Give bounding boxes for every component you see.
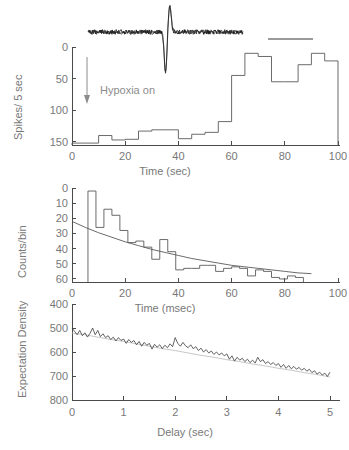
tick-label: 80	[279, 150, 291, 162]
tick-label: 3	[224, 406, 230, 418]
rate-histogram-trace	[72, 53, 338, 145]
tick-label: 50	[56, 258, 68, 270]
tick-label: 500	[50, 322, 68, 334]
tick-label: 20	[119, 287, 131, 299]
bottom-x-axis-title: Delay (sec)	[157, 426, 213, 438]
tick-label: 40	[56, 243, 68, 255]
top-x-axis-title: Time (sec)	[139, 165, 191, 177]
tick-label: 100	[329, 287, 347, 299]
tick-label: 60	[56, 273, 68, 285]
tick-label: 30	[56, 227, 68, 239]
tick-label: 0	[69, 406, 75, 418]
tick-label: 0	[62, 41, 68, 53]
tick-label: 10	[56, 197, 68, 209]
top-x-ticks: 020406080100	[69, 141, 347, 162]
bottom-y-axis-title: Expectation Density	[16, 300, 28, 398]
tick-label: 40	[172, 287, 184, 299]
tick-label: 80	[279, 287, 291, 299]
hypoxia-on-label: Hypoxia on	[100, 84, 155, 96]
tick-label: 800	[50, 394, 68, 406]
panel-bottom-expectation-density: 400500600700800 012345 Expectation Densi…	[16, 298, 340, 438]
observed-density-trace	[72, 328, 330, 376]
tick-label: 1	[121, 406, 127, 418]
tick-label: 5	[327, 406, 333, 418]
tick-label: 700	[50, 370, 68, 382]
middle-y-ticks: 0102030405060	[56, 182, 76, 285]
tick-label: 150	[50, 136, 68, 148]
figure-root: 050100150 020406080100 Hypoxia on Spikes…	[0, 0, 349, 450]
tick-label: 0	[69, 150, 75, 162]
tick-label: 20	[119, 150, 131, 162]
tick-label: 4	[275, 406, 281, 418]
tick-label: 40	[172, 150, 184, 162]
figure-canvas: 050100150 020406080100 Hypoxia on Spikes…	[0, 0, 349, 450]
tick-label: 2	[172, 406, 178, 418]
tick-label: 100	[329, 150, 347, 162]
exponential-fit-curve	[72, 221, 311, 273]
tick-label: 0	[69, 287, 75, 299]
tick-label: 60	[225, 150, 237, 162]
tick-label: 400	[50, 298, 68, 310]
hypoxia-arrow-icon	[84, 57, 90, 104]
middle-x-ticks: 020406080100	[69, 278, 347, 299]
panel-top-rate-histogram: 050100150 020406080100 Hypoxia on Spikes…	[12, 5, 347, 177]
tick-label: 0	[62, 182, 68, 194]
middle-y-axis-title: Counts/bin	[16, 225, 28, 278]
extracellular-spike-waveform	[88, 5, 243, 73]
top-y-axis-title: Spikes/ 5 sec	[12, 74, 24, 140]
tick-label: 20	[56, 212, 68, 224]
interval-histogram-trace	[88, 191, 303, 282]
tick-label: 50	[56, 73, 68, 85]
tick-label: 60	[225, 287, 237, 299]
bottom-x-ticks: 012345	[69, 396, 333, 418]
tick-label: 100	[50, 104, 68, 116]
panel-middle-interval-histogram: 0102030405060 020406080100 Counts/bin Ti…	[16, 182, 347, 314]
middle-x-axis-title: Time (msec)	[135, 302, 196, 314]
tick-label: 600	[50, 346, 68, 358]
